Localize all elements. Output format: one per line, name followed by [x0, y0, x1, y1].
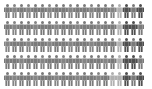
person-icon	[81, 72, 88, 86]
person-icon	[11, 21, 18, 35]
person-icon	[95, 21, 102, 35]
person-icon	[95, 72, 102, 86]
person-icon	[39, 72, 46, 86]
person-icon	[32, 4, 39, 18]
person-icon	[53, 21, 60, 35]
pictogram-row	[4, 55, 144, 69]
person-icon	[32, 55, 39, 69]
person-icon	[32, 21, 39, 35]
person-icon	[4, 55, 11, 69]
person-icon	[102, 38, 109, 52]
person-icon	[60, 55, 67, 69]
person-icon	[32, 72, 39, 86]
person-icon	[88, 21, 95, 35]
person-icon	[4, 21, 11, 35]
person-icon	[116, 38, 123, 52]
person-icon	[74, 21, 81, 35]
person-icon	[102, 4, 109, 18]
person-icon	[74, 72, 81, 86]
person-icon	[74, 4, 81, 18]
person-icon	[123, 38, 130, 52]
person-icon	[67, 55, 74, 69]
person-icon	[130, 4, 137, 18]
person-icon	[67, 21, 74, 35]
person-icon	[11, 4, 18, 18]
person-icon	[81, 4, 88, 18]
person-icon	[81, 38, 88, 52]
person-icon	[25, 55, 32, 69]
person-icon	[46, 38, 53, 52]
person-icon	[102, 55, 109, 69]
person-icon	[130, 38, 137, 52]
person-icon	[109, 38, 116, 52]
pictogram-chart	[0, 0, 152, 89]
pictogram-row	[4, 21, 144, 35]
person-icon	[109, 55, 116, 69]
person-icon	[74, 38, 81, 52]
person-icon	[74, 55, 81, 69]
person-icon	[46, 21, 53, 35]
person-icon	[81, 55, 88, 69]
person-icon	[53, 38, 60, 52]
pictogram-row	[4, 4, 144, 18]
person-icon	[88, 4, 95, 18]
person-icon	[130, 72, 137, 86]
person-icon	[53, 4, 60, 18]
person-icon	[18, 4, 25, 18]
person-icon	[88, 55, 95, 69]
person-icon	[116, 4, 123, 18]
person-icon	[88, 72, 95, 86]
person-icon	[116, 72, 123, 86]
person-icon	[25, 21, 32, 35]
person-icon	[39, 55, 46, 69]
person-icon	[123, 55, 130, 69]
person-icon	[137, 38, 144, 52]
pictogram-row	[4, 38, 144, 52]
person-icon	[11, 38, 18, 52]
person-icon	[46, 72, 53, 86]
person-icon	[81, 21, 88, 35]
person-icon	[60, 38, 67, 52]
person-icon	[32, 38, 39, 52]
person-icon	[25, 38, 32, 52]
person-icon	[25, 72, 32, 86]
person-icon	[18, 38, 25, 52]
person-icon	[137, 55, 144, 69]
person-icon	[11, 55, 18, 69]
person-icon	[123, 72, 130, 86]
person-icon	[18, 55, 25, 69]
person-icon	[18, 21, 25, 35]
person-icon	[95, 4, 102, 18]
person-icon	[67, 4, 74, 18]
person-icon	[109, 4, 116, 18]
person-icon	[95, 38, 102, 52]
person-icon	[137, 4, 144, 18]
person-icon	[4, 72, 11, 86]
person-icon	[39, 4, 46, 18]
person-icon	[116, 21, 123, 35]
person-icon	[39, 21, 46, 35]
person-icon	[39, 38, 46, 52]
person-icon	[60, 21, 67, 35]
person-icon	[53, 72, 60, 86]
person-icon	[130, 55, 137, 69]
person-icon	[67, 72, 74, 86]
person-icon	[67, 38, 74, 52]
person-icon	[4, 38, 11, 52]
pictogram-row	[4, 72, 144, 86]
person-icon	[60, 4, 67, 18]
person-icon	[53, 55, 60, 69]
person-icon	[95, 55, 102, 69]
person-icon	[25, 4, 32, 18]
person-icon	[116, 55, 123, 69]
person-icon	[60, 72, 67, 86]
person-icon	[46, 4, 53, 18]
person-icon	[123, 21, 130, 35]
person-icon	[88, 38, 95, 52]
person-icon	[102, 72, 109, 86]
person-icon	[4, 4, 11, 18]
person-icon	[137, 21, 144, 35]
person-icon	[130, 21, 137, 35]
person-icon	[102, 21, 109, 35]
person-icon	[11, 72, 18, 86]
